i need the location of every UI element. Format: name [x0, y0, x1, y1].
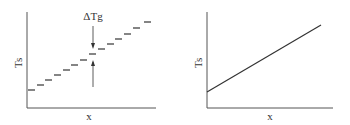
arrow-up-icon [91, 60, 95, 87]
delta-tg-annotation: ΔTg [83, 10, 103, 22]
linear-trend-line [207, 25, 321, 92]
left-panel-stepped-plot: Ts x ΔTg [12, 10, 156, 122]
left-xlabel: x [86, 110, 92, 122]
right-panel-linear-plot: Ts x [192, 12, 333, 122]
arrow-down-icon [91, 26, 95, 49]
step-segments [28, 22, 151, 90]
right-ylabel: Ts [192, 58, 204, 68]
left-ylabel: Ts [12, 58, 24, 68]
diagram-canvas: Ts x ΔTg Ts x [0, 0, 350, 125]
right-xlabel: x [267, 110, 273, 122]
